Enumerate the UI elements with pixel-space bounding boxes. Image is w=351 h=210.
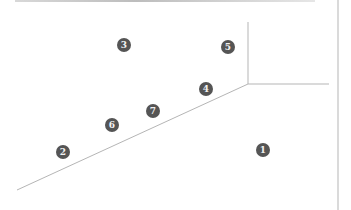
marker-4: 4 bbox=[199, 82, 213, 96]
diagonal-line bbox=[17, 84, 248, 190]
diagram-canvas bbox=[0, 0, 351, 210]
marker-2: 2 bbox=[56, 145, 70, 159]
marker-7: 7 bbox=[146, 104, 160, 118]
marker-5: 5 bbox=[221, 40, 235, 54]
marker-3: 3 bbox=[117, 38, 131, 52]
marker-1: 1 bbox=[256, 143, 270, 157]
marker-6: 6 bbox=[105, 118, 119, 132]
